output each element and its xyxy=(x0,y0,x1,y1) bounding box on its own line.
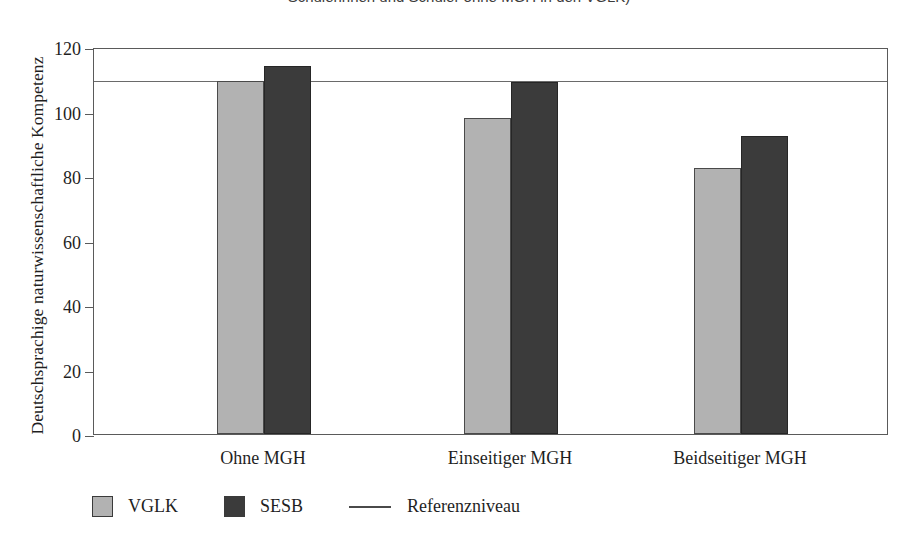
x-label-0: Ohne MGH xyxy=(220,448,306,469)
legend-label-sesb: SESB xyxy=(260,496,303,517)
bar-vglk-1 xyxy=(464,118,511,434)
y-tick-label: 80 xyxy=(63,168,81,189)
legend-item-vglk[interactable]: VGLK xyxy=(92,496,178,517)
bar-chart: Deutschsprachige naturwissenschaftliche … xyxy=(0,0,918,544)
x-label-2: Beidseitiger MGH xyxy=(673,448,806,469)
legend-swatch-sesb xyxy=(224,496,245,517)
chart-legend: VGLKSESBReferenzniveau xyxy=(92,496,566,517)
bar-vglk-0 xyxy=(217,81,264,434)
bar-sesb-0 xyxy=(264,66,311,434)
y-tick-label: 0 xyxy=(72,426,81,447)
legend-line-marker xyxy=(349,506,391,508)
legend-item-sesb[interactable]: SESB xyxy=(224,496,303,517)
y-tick-label: 60 xyxy=(63,232,81,253)
y-tick-mark xyxy=(85,307,94,308)
legend-item-referenzniveau[interactable]: Referenzniveau xyxy=(349,496,520,517)
y-tick-mark xyxy=(85,114,94,115)
reference-line xyxy=(94,81,887,82)
y-tick-label: 40 xyxy=(63,297,81,318)
bar-sesb-1 xyxy=(511,82,558,434)
legend-label-referenzniveau: Referenzniveau xyxy=(407,496,520,517)
legend-swatch-vglk xyxy=(92,496,113,517)
bar-vglk-2 xyxy=(694,168,741,434)
legend-label-vglk: VGLK xyxy=(128,496,178,517)
x-label-1: Einseitiger MGH xyxy=(448,448,572,469)
plot-area: 020406080100120 xyxy=(93,48,888,435)
y-tick-mark xyxy=(85,49,94,50)
bar-sesb-2 xyxy=(741,136,788,434)
y-tick-label: 120 xyxy=(54,39,81,60)
y-tick-mark xyxy=(85,436,94,437)
y-tick-label: 20 xyxy=(63,361,81,382)
y-tick-mark xyxy=(85,178,94,179)
y-axis-title: Deutschsprachige naturwissenschaftliche … xyxy=(27,36,48,456)
y-tick-label: 100 xyxy=(54,103,81,124)
y-tick-mark xyxy=(85,372,94,373)
y-tick-mark xyxy=(85,243,94,244)
